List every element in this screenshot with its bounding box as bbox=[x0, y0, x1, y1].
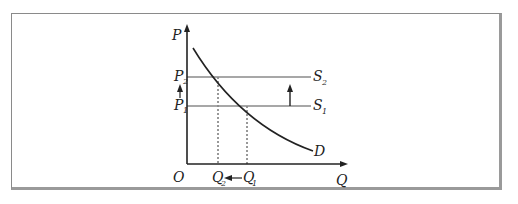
p2-subscript: 2 bbox=[182, 77, 188, 86]
s1-subscript: 1 bbox=[322, 107, 327, 116]
x-axis-label: Q bbox=[336, 172, 348, 188]
q1-subscript: 1 bbox=[252, 179, 257, 188]
demand-curve bbox=[193, 48, 313, 151]
supply-demand-diagram: P O Q P 2 P 1 S 2 S 1 D Q 2 Q 1 bbox=[0, 0, 518, 204]
y-axis-label: P bbox=[171, 27, 182, 43]
demand-label: D bbox=[313, 143, 325, 159]
origin-label: O bbox=[173, 169, 185, 185]
s2-subscript: 2 bbox=[321, 78, 327, 87]
q2-subscript: 2 bbox=[220, 179, 226, 188]
p1-subscript: 1 bbox=[183, 106, 188, 115]
